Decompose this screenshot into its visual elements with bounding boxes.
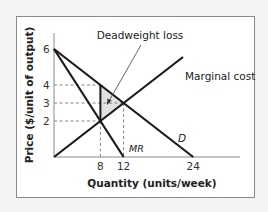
y-tick-2: 2 <box>43 115 50 127</box>
y-tick-4: 4 <box>43 79 50 91</box>
x-tick-12: 12 <box>117 160 130 172</box>
x-tick-24: 24 <box>187 160 201 172</box>
y-axis-title: Price ($/unit of output) <box>23 27 35 164</box>
y-tick-3: 3 <box>43 97 50 109</box>
x-axis-title: Quantity (units/week) <box>87 177 216 189</box>
x-tick-8: 8 <box>97 160 104 172</box>
marginal-cost-label: Marginal cost <box>185 70 255 82</box>
y-tick-6: 6 <box>43 43 50 55</box>
mr-label: MR <box>129 143 144 154</box>
deadweight-loss-label: Deadweight loss <box>97 29 184 41</box>
chart-canvas: 6 4 3 2 8 12 24 Deadweight loss Marginal… <box>0 0 268 212</box>
demand-label: D <box>178 132 186 144</box>
marginal-cost-curve <box>54 57 183 157</box>
